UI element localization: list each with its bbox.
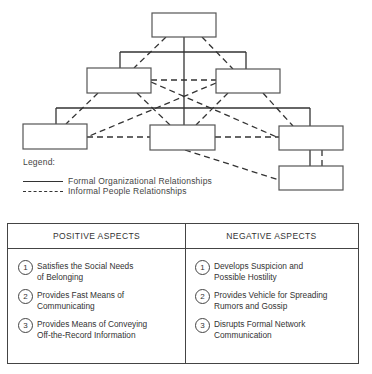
positive-item-2: 2 Provides Fast Means of Communicating (18, 289, 181, 315)
negative-aspects-column: NEGATIVE ASPECTS 1 Develops Suspicion an… (185, 224, 358, 363)
negative-item-1: 1 Develops Suspicion and Possible Hostil… (195, 260, 354, 286)
org-boxes (23, 13, 343, 190)
negative-item-text: Disrupts Formal Network Communication (214, 319, 305, 341)
positive-aspects-column: POSITIVE ASPECTS 1 Satisfies the Social … (8, 224, 186, 363)
number-circle-icon: 1 (18, 260, 33, 275)
number-circle-icon: 2 (195, 289, 210, 304)
informal-line (137, 93, 170, 125)
negative-item-2: 2 Provides Vehicle for Spreading Rumors … (195, 289, 354, 315)
number-circle-icon: 3 (195, 318, 210, 333)
org-box-bottom-left (23, 124, 87, 149)
org-box-top (152, 13, 216, 37)
aspects-table: POSITIVE ASPECTS 1 Satisfies the Social … (7, 223, 359, 364)
org-box-mid-right (216, 69, 280, 93)
number-circle-icon: 3 (18, 318, 33, 333)
positive-item-text: Provides Means of Conveying Off-the-Reco… (37, 319, 147, 341)
negative-item-text: Develops Suspicion and Possible Hostilit… (214, 261, 303, 283)
number-circle-icon: 1 (195, 260, 210, 275)
negative-aspects-header: NEGATIVE ASPECTS (185, 224, 358, 249)
org-box-bottom-center (150, 125, 215, 150)
negative-item-3: 3 Disrupts Formal Network Communication (195, 318, 354, 344)
positive-item-3: 3 Provides Means of Conveying Off-the-Re… (18, 318, 181, 344)
solid-line-swatch-icon (23, 181, 63, 182)
org-box-bottom-right (279, 126, 343, 150)
dashed-line-swatch-icon (23, 191, 63, 192)
positive-item-text: Provides Fast Means of Communicating (37, 290, 124, 312)
positive-aspects-header: POSITIVE ASPECTS (8, 224, 185, 249)
legend-label-informal: Informal People Relationships (68, 186, 187, 196)
org-box-lowest-right (279, 166, 343, 190)
informal-line (263, 93, 293, 126)
informal-line (196, 93, 228, 125)
positive-item-text: Satisfies the Social Needs of Belonging (37, 261, 133, 283)
legend-title: Legend: (23, 157, 55, 167)
legend-label-formal: Formal Organizational Relationships (68, 176, 212, 186)
negative-item-text: Provides Vehicle for Spreading Rumors an… (214, 290, 327, 312)
informal-line (202, 37, 233, 69)
number-circle-icon: 2 (18, 289, 33, 304)
org-box-mid-left (87, 68, 151, 93)
positive-item-1: 1 Satisfies the Social Needs of Belongin… (18, 260, 181, 286)
